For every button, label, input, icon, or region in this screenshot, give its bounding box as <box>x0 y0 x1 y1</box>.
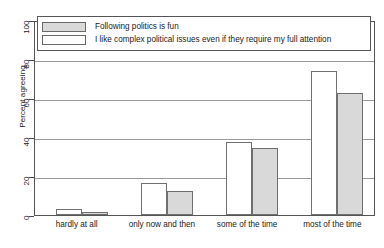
legend-label: Following politics is fun <box>95 22 179 32</box>
legend-item: I like complex political issues even if … <box>42 34 366 46</box>
bar <box>337 93 363 215</box>
chart-legend: Following politics is funI like complex … <box>37 16 371 51</box>
y-tick-label: 40 <box>22 138 31 164</box>
y-tick-label: 20 <box>22 177 31 203</box>
legend-label: I like complex political issues even if … <box>95 35 331 45</box>
bar-chart: Percent agreeing 020406080100 hardly at … <box>0 0 384 248</box>
legend-swatch <box>42 22 86 32</box>
x-tick-label: hardly at all <box>34 220 119 229</box>
bar <box>141 183 167 215</box>
x-tick-label: some of the time <box>205 220 290 229</box>
bar <box>226 142 252 215</box>
y-tick-label: 100 <box>22 21 31 47</box>
y-tick-label: 80 <box>22 60 31 86</box>
bar <box>167 191 193 215</box>
bar <box>252 148 278 215</box>
x-tick-label: most of the time <box>290 220 375 229</box>
y-tick-label: 0 <box>22 216 31 242</box>
y-tick-label: 60 <box>22 99 31 125</box>
x-tick-label: only now and then <box>119 220 204 229</box>
bar <box>82 212 108 215</box>
legend-swatch <box>42 35 86 45</box>
y-tick-mark <box>29 216 34 217</box>
legend-item: Following politics is fun <box>42 21 366 33</box>
bar <box>311 71 337 215</box>
bar <box>56 209 82 215</box>
